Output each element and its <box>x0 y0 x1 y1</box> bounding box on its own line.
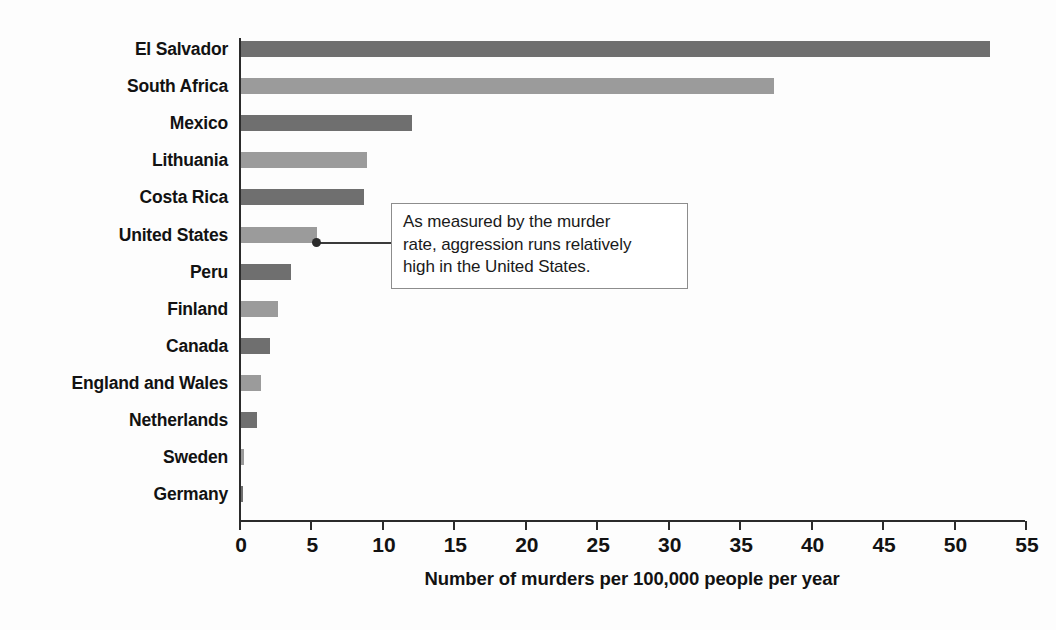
category-label: Finland <box>0 301 228 319</box>
annotation-line-1: As measured by the murder <box>403 211 677 234</box>
x-tick-mark <box>453 521 455 530</box>
bar <box>241 412 257 428</box>
x-tick-label: 45 <box>854 534 914 555</box>
bar <box>241 152 367 168</box>
bar <box>241 227 317 243</box>
x-tick-label: 35 <box>711 534 771 555</box>
x-tick-mark <box>668 521 670 530</box>
x-tick-mark <box>882 521 884 530</box>
bar <box>241 115 412 131</box>
bar <box>241 189 364 205</box>
category-label: Peru <box>0 264 228 282</box>
annotation-line-2: rate, aggression runs relatively <box>403 234 677 257</box>
x-tick-label: 0 <box>211 534 271 555</box>
category-label: Germany <box>0 486 228 504</box>
x-tick-label: 15 <box>425 534 485 555</box>
callout-leader-dot <box>312 238 321 247</box>
callout-leader-line <box>318 242 391 244</box>
category-label: United States <box>0 227 228 245</box>
annotation-callout: As measured by the murder rate, aggressi… <box>391 203 688 289</box>
x-tick-mark <box>382 521 384 530</box>
bar <box>241 41 990 57</box>
category-label: Costa Rica <box>0 189 228 207</box>
bar <box>241 486 243 502</box>
bar <box>241 264 291 280</box>
x-tick-mark <box>239 521 241 530</box>
x-tick-label: 30 <box>640 534 700 555</box>
category-label: Sweden <box>0 449 228 467</box>
bar <box>241 449 244 465</box>
category-axis-labels: El SalvadorSouth AfricaMexicoLithuaniaCo… <box>0 0 228 630</box>
bar <box>241 301 278 317</box>
x-tick-mark <box>739 521 741 530</box>
x-tick-label: 10 <box>354 534 414 555</box>
x-tick-mark <box>596 521 598 530</box>
x-tick-mark <box>310 521 312 530</box>
x-tick-label: 25 <box>568 534 628 555</box>
x-tick-mark <box>811 521 813 530</box>
x-tick-label: 55 <box>997 534 1056 555</box>
category-label: Netherlands <box>0 412 228 430</box>
x-axis-line <box>239 520 1025 522</box>
category-label: South Africa <box>0 78 228 96</box>
x-tick-label: 20 <box>497 534 557 555</box>
x-tick-label: 40 <box>783 534 843 555</box>
bar <box>241 78 774 94</box>
category-label: El Salvador <box>0 41 228 59</box>
category-label: Canada <box>0 338 228 356</box>
category-label: Lithuania <box>0 152 228 170</box>
category-label: Mexico <box>0 115 228 133</box>
x-tick-mark <box>1025 521 1027 530</box>
x-axis-title: Number of murders per 100,000 people per… <box>239 568 1025 590</box>
murder-rate-bar-chart: El SalvadorSouth AfricaMexicoLithuaniaCo… <box>0 0 1056 630</box>
category-label: England and Wales <box>0 375 228 393</box>
x-tick-label: 50 <box>926 534 986 555</box>
x-tick-mark <box>954 521 956 530</box>
x-tick-mark <box>525 521 527 530</box>
bar <box>241 338 270 354</box>
annotation-line-3: high in the United States. <box>403 256 677 279</box>
x-tick-label: 5 <box>282 534 342 555</box>
bar <box>241 375 261 391</box>
